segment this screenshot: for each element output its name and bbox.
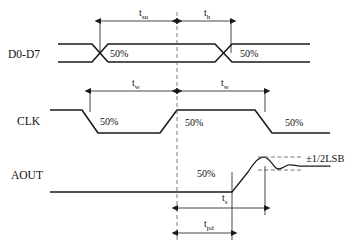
percent-label-data-cross-right: 50% [240,48,258,59]
waveform-aout [50,157,330,192]
dim-label-t-h: th [204,7,211,21]
signal-label-aout: AOUT [11,169,43,181]
bus-lower-path [58,44,310,62]
lsb-tolerance-label: ±1/2LSB [306,153,344,164]
dim-label-t-pd: tpd [204,218,214,232]
waveform-d0-d7 [58,44,310,62]
percent-label-clk-fall-left: 50% [100,116,118,127]
timing-diagram-root: D0-D7 CLK AOUT [0,0,362,250]
percent-label-aout-rise: 50% [197,168,215,179]
percent-label-clk-fall-right: 50% [285,117,303,128]
bus-upper-path [108,44,310,62]
dimension-labels: tsu th tw tw ts tpd [132,7,230,232]
dim-label-t-w-left: tw [132,77,141,91]
signal-label-clk: CLK [17,115,41,127]
dim-label-t-w-right: tw [221,77,230,91]
percent-labels: 50% 50% 50% 50% 50% 50% [100,48,303,179]
percent-label-data-cross-left: 50% [110,48,128,59]
dim-label-t-s: ts [222,192,228,206]
signal-label-d0-d7: D0-D7 [8,48,40,60]
percent-label-clk-rise-mid: 50% [185,117,203,128]
dim-label-t-su: tsu [139,7,149,21]
timing-diagram-canvas: D0-D7 CLK AOUT [0,0,362,250]
